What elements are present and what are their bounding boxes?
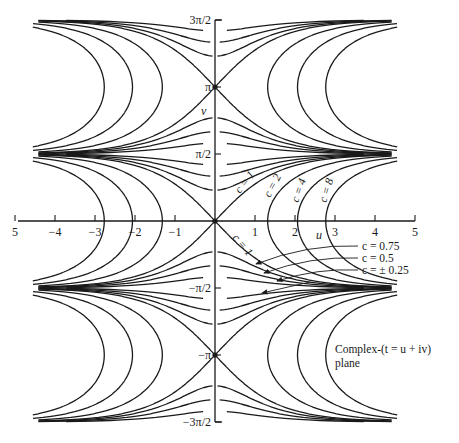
contour-curve <box>215 289 392 421</box>
curve-label: c = 2 <box>261 172 283 199</box>
v-tick-label: −π <box>198 348 211 362</box>
contour-curve <box>268 22 392 152</box>
contour-curve <box>326 295 398 415</box>
u-axis-label: u <box>316 228 322 242</box>
u-tick-label: 5 <box>12 225 18 239</box>
saddle-point-origin <box>212 218 217 223</box>
saddle-point-pi <box>212 84 217 89</box>
plane-caption-line2: plane <box>335 357 360 370</box>
v-tick-label: −3π/2 <box>183 415 211 429</box>
contour-curve <box>268 290 392 420</box>
u-tick-label: −1 <box>169 225 182 239</box>
contour-curve <box>38 21 215 153</box>
v-tick-label: π <box>205 80 211 94</box>
callout-label: c = ± 0.25 <box>362 264 409 276</box>
plane-caption-line1: Complex-(t = u + iv) <box>335 343 431 356</box>
u-tick-label: 5 <box>412 225 418 239</box>
u-tick-label: 1 <box>252 225 258 239</box>
contour-curve <box>326 27 398 147</box>
v-tick-label: π/2 <box>196 147 211 161</box>
contour-curve <box>50 21 213 56</box>
contour-curve <box>218 289 381 324</box>
curve-label: c = 1 <box>232 169 256 196</box>
contour-curve <box>33 292 133 419</box>
contour-curve <box>33 295 105 415</box>
u-tick-label: −3 <box>89 225 102 239</box>
v-tick-label: 3π/2 <box>190 13 211 27</box>
contour-curve <box>33 27 105 147</box>
u-tick-label: 4 <box>372 225 378 239</box>
u-tick-label: −2 <box>129 225 142 239</box>
contour-curve <box>33 24 133 151</box>
v-axis-label: v <box>201 104 207 118</box>
contour-curve <box>218 386 381 421</box>
contour-diagram: 5−4−3−2−112345 3π/2ππ/2−π/2−π−3π/2 u v c… <box>0 0 459 443</box>
callout-label: c = 0.75 <box>362 240 400 252</box>
contour-curve <box>215 21 392 153</box>
contour-curve <box>298 24 398 151</box>
contour-curve <box>50 118 213 153</box>
contour-curve <box>218 21 381 56</box>
v-tick-label: −π/2 <box>189 281 211 295</box>
saddle-point-neg-pi <box>212 352 217 357</box>
contour-curve <box>218 118 381 153</box>
contour-curve <box>38 289 215 421</box>
contour-curve <box>298 292 398 419</box>
callout-label: c = 0.5 <box>362 252 394 264</box>
curve-labels: c = 1c = 2c = 4c = 8c = 1 <box>230 169 335 258</box>
u-tick-label: 2 <box>292 225 298 239</box>
contour-curve <box>38 290 162 420</box>
contour-curve <box>50 155 213 190</box>
contour-curve <box>38 22 162 152</box>
u-tick-label: 3 <box>332 225 338 239</box>
u-tick-label: −4 <box>49 225 62 239</box>
